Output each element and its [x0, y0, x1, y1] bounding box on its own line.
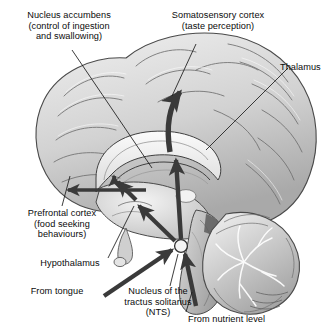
label-thalamus: Thalamus	[280, 62, 332, 73]
brain-illustration	[0, 0, 332, 334]
label-nts: Nucleus of the tractus solitarius (NTS)	[106, 286, 210, 318]
label-prefrontal-cortex: Prefrontal cortex (food seeking behaviou…	[4, 208, 120, 240]
label-from-nutrient-level: From nutrient level	[188, 314, 318, 325]
label-hypothalamus: Hypothalamus	[24, 258, 116, 269]
label-nucleus-accumbens: Nucleus accumbens (control of ingestion …	[8, 10, 130, 42]
label-from-tongue: From tongue	[14, 286, 100, 297]
leader-nts	[170, 254, 178, 286]
brain-diagram-figure: Nucleus accumbens (control of ingestion …	[0, 0, 332, 334]
cerebellum	[203, 212, 300, 314]
label-somatosensory-cortex: Somatosensory cortex (taste perception)	[156, 10, 280, 31]
nts-node	[175, 240, 188, 253]
